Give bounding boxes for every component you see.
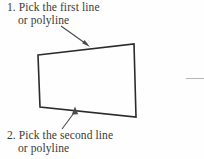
callout-second-line-text-1: 2. Pick the second line [7,129,113,142]
arrow-to-top-edge [61,26,90,47]
callout-first-line: 1. Pick the first line or polyline [7,1,100,27]
callout-first-line-text-1: 1. Pick the first line [7,1,100,14]
callout-first-line-text-2: or polyline [7,14,100,27]
quadrilateral-outline [38,44,136,117]
callout-second-line-text-2: or polyline [7,142,113,155]
callout-second-line: 2. Pick the second line or polyline [7,129,113,155]
figure-canvas: 1. Pick the first line or polyline 2. Pi… [0,0,204,159]
